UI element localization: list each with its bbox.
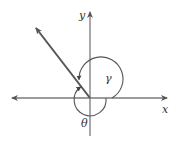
- terminal-ray: [36, 28, 90, 98]
- y-axis-label: y: [78, 9, 86, 22]
- angle-diagram: y x γ θ: [0, 0, 178, 144]
- gamma-label: γ: [105, 72, 112, 85]
- x-axis-label: x: [162, 103, 169, 116]
- theta-label: θ: [81, 117, 88, 130]
